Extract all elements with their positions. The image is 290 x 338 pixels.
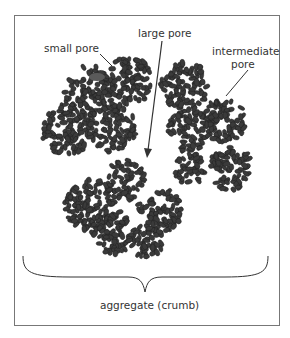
large-pore-arrowhead-icon xyxy=(144,148,152,158)
small-pore-label: small pore xyxy=(44,42,99,54)
intermediate-pore-label-1: intermediate xyxy=(212,45,280,57)
large-pore-arrow-line xyxy=(148,41,162,150)
intermediate-pore-label-2: pore xyxy=(231,58,255,70)
small-pore-arrow xyxy=(100,54,112,66)
soil-aggregate-diagram: small pore large pore intermediate pore … xyxy=(0,0,290,338)
aggregate-brace xyxy=(23,256,268,292)
aggregate-label: aggregate (crumb) xyxy=(100,299,199,311)
small-pore-particle xyxy=(89,73,105,81)
soil-particles xyxy=(40,56,254,259)
intermediate-pore-arrow xyxy=(226,70,248,96)
large-pore-label: large pore xyxy=(138,27,192,39)
